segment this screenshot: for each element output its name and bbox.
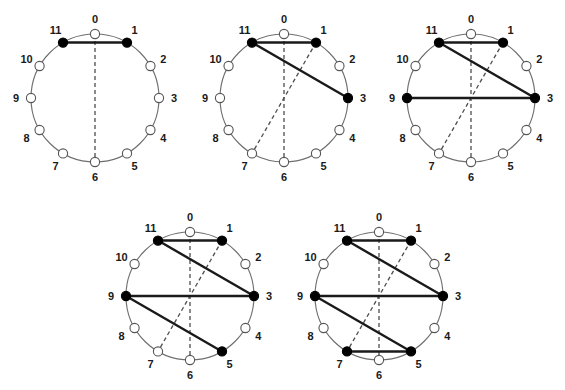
node-label-9: 9: [202, 92, 208, 104]
filled-node-3[interactable]: [343, 93, 352, 102]
hollow-node-8[interactable]: [35, 125, 44, 134]
node-label-0: 0: [92, 13, 98, 25]
hollow-node-4[interactable]: [335, 125, 344, 134]
hollow-node-0[interactable]: [279, 29, 288, 38]
filled-node-1[interactable]: [122, 38, 131, 47]
filled-node-3[interactable]: [530, 93, 539, 102]
node-label-8: 8: [400, 132, 406, 144]
hollow-node-8[interactable]: [411, 125, 420, 134]
hollow-node-6[interactable]: [279, 157, 288, 166]
node-label-8: 8: [213, 132, 219, 144]
hollow-node-2[interactable]: [146, 61, 155, 70]
hollow-node-6[interactable]: [374, 355, 383, 364]
node-label-2: 2: [444, 251, 450, 263]
hollow-node-0[interactable]: [374, 227, 383, 236]
hollow-node-6[interactable]: [466, 157, 475, 166]
filled-node-5[interactable]: [406, 347, 415, 356]
hollow-node-0[interactable]: [185, 227, 194, 236]
hollow-node-5[interactable]: [122, 149, 131, 158]
node-label-3: 3: [171, 92, 177, 104]
hollow-node-2[interactable]: [241, 259, 250, 268]
node-label-9: 9: [389, 92, 395, 104]
node-label-6: 6: [187, 369, 193, 381]
figure-container: 0123456789101101234567891011012345678910…: [0, 0, 565, 390]
filled-node-11[interactable]: [342, 236, 351, 245]
filled-node-11[interactable]: [58, 38, 67, 47]
filled-node-9[interactable]: [121, 291, 130, 300]
node-label-4: 4: [536, 132, 543, 144]
node-label-3: 3: [547, 92, 553, 104]
hollow-node-2[interactable]: [430, 259, 439, 268]
hollow-node-7[interactable]: [153, 347, 162, 356]
hollow-node-9[interactable]: [26, 93, 35, 102]
hollow-node-9[interactable]: [215, 93, 224, 102]
filled-node-9[interactable]: [310, 291, 319, 300]
hollow-node-8[interactable]: [319, 323, 328, 332]
node-label-7: 7: [336, 358, 342, 370]
hollow-node-7[interactable]: [58, 149, 67, 158]
node-label-5: 5: [320, 160, 326, 172]
hollow-node-10[interactable]: [130, 259, 139, 268]
node-label-2: 2: [349, 53, 355, 65]
node-label-11: 11: [50, 24, 62, 36]
hollow-node-10[interactable]: [224, 61, 233, 70]
node-label-1: 1: [415, 222, 421, 234]
node-label-10: 10: [304, 251, 316, 263]
hollow-node-0[interactable]: [90, 29, 99, 38]
filled-node-5[interactable]: [217, 347, 226, 356]
hollow-node-6[interactable]: [185, 355, 194, 364]
node-label-9: 9: [108, 290, 114, 302]
node-label-2: 2: [536, 53, 542, 65]
filled-node-3[interactable]: [249, 291, 258, 300]
hollow-node-10[interactable]: [319, 259, 328, 268]
hollow-node-6[interactable]: [90, 157, 99, 166]
hollow-node-5[interactable]: [498, 149, 507, 158]
hollow-node-4[interactable]: [241, 323, 250, 332]
node-label-11: 11: [334, 222, 346, 234]
node-label-2: 2: [255, 251, 261, 263]
filled-node-1[interactable]: [498, 38, 507, 47]
filled-node-11[interactable]: [434, 38, 443, 47]
filled-node-3[interactable]: [438, 291, 447, 300]
hollow-node-4[interactable]: [522, 125, 531, 134]
hollow-node-10[interactable]: [411, 61, 420, 70]
node-label-3: 3: [360, 92, 366, 104]
node-label-0: 0: [468, 13, 474, 25]
filled-node-1[interactable]: [311, 38, 320, 47]
filled-node-1[interactable]: [406, 236, 415, 245]
filled-node-9[interactable]: [402, 93, 411, 102]
node-label-1: 1: [131, 24, 137, 36]
node-label-7: 7: [241, 160, 247, 172]
node-label-10: 10: [209, 53, 221, 65]
filled-node-1[interactable]: [217, 236, 226, 245]
node-label-5: 5: [226, 358, 232, 370]
hollow-node-4[interactable]: [146, 125, 155, 134]
hollow-node-2[interactable]: [522, 61, 531, 70]
node-label-6: 6: [92, 171, 98, 183]
node-label-8: 8: [24, 132, 30, 144]
node-label-7: 7: [52, 160, 58, 172]
hollow-node-3[interactable]: [154, 93, 163, 102]
hollow-node-8[interactable]: [130, 323, 139, 332]
node-label-4: 4: [160, 132, 167, 144]
filled-node-11[interactable]: [247, 38, 256, 47]
hollow-node-2[interactable]: [335, 61, 344, 70]
node-label-8: 8: [119, 330, 125, 342]
hollow-node-5[interactable]: [311, 149, 320, 158]
node-label-10: 10: [396, 53, 408, 65]
hollow-node-10[interactable]: [35, 61, 44, 70]
node-label-1: 1: [320, 24, 326, 36]
hollow-node-7[interactable]: [434, 149, 443, 158]
node-label-7: 7: [428, 160, 434, 172]
node-label-5: 5: [415, 358, 421, 370]
filled-node-11[interactable]: [153, 236, 162, 245]
node-label-5: 5: [131, 160, 137, 172]
hollow-node-4[interactable]: [430, 323, 439, 332]
node-label-8: 8: [308, 330, 314, 342]
node-label-0: 0: [376, 211, 382, 223]
hollow-node-8[interactable]: [224, 125, 233, 134]
hollow-node-0[interactable]: [466, 29, 475, 38]
filled-node-7[interactable]: [342, 347, 351, 356]
hollow-node-7[interactable]: [247, 149, 256, 158]
node-label-1: 1: [507, 24, 513, 36]
